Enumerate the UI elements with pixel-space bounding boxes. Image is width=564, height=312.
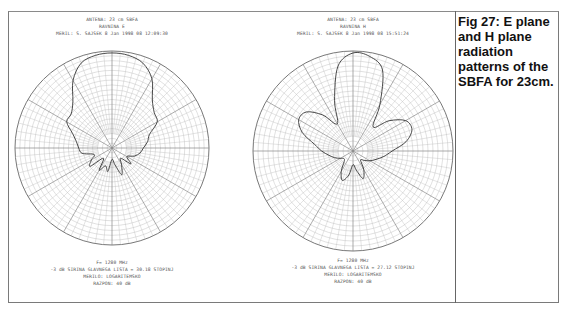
plot-h-header-3: MERIL: S. SAJSEK 8 Jan 1998 08 15:51:24 bbox=[283, 31, 423, 37]
plot-e-header-1: ANTENA: 23 cm SBFA bbox=[52, 17, 172, 23]
plot-h-header-2: RAVNINA H bbox=[293, 24, 413, 30]
plot-e-footer-2: -3 dB SIRINA GLAVNEGA LISTA = 30.18 STOP… bbox=[32, 267, 192, 273]
plot-e-footer-1: F= 1280 MHz bbox=[52, 260, 172, 266]
plot-e-header-2: RAVNINA E bbox=[52, 24, 172, 30]
plot-e-footer-3: MERILO: LOGARITEMSKO bbox=[52, 274, 172, 280]
plot-h-footer-3: MERILO: LOGARITEMSKO bbox=[293, 272, 413, 278]
figure-caption: Fig 27: E plane and H plane radiation pa… bbox=[458, 14, 562, 89]
radiation-pattern-curve bbox=[299, 52, 412, 180]
e-plane-polar-chart bbox=[12, 48, 212, 248]
plot-h-footer-1: F= 1280 MHz bbox=[293, 258, 413, 264]
plot-h-footer-4: RAZPON: 40 dB bbox=[293, 279, 413, 285]
h-plane-polar-chart bbox=[250, 48, 456, 254]
plot-h-footer-2: -3 dB SIRINA GLAVNEGA LISTA = 27.12 STOP… bbox=[273, 265, 433, 271]
plot-h-header-1: ANTENA: 23 cm SBFA bbox=[293, 17, 413, 23]
plot-e-header-3: MERIL: S. SAJSEK 8 Jan 1998 08 12:09:30 bbox=[42, 31, 182, 37]
plot-e-footer-4: RAZPON: 40 dB bbox=[52, 281, 172, 287]
